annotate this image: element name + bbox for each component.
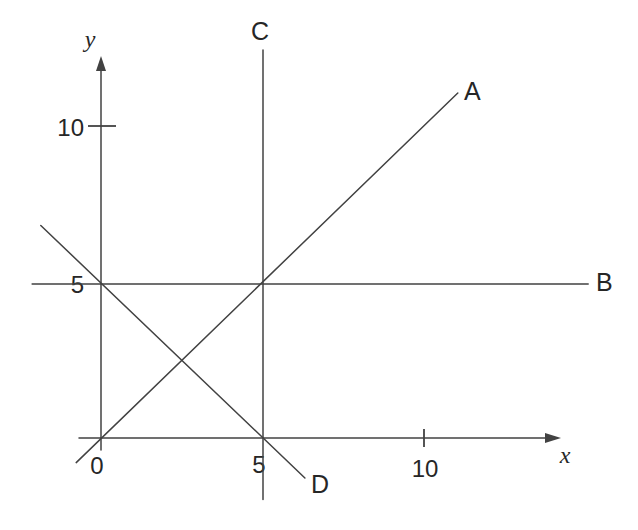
- line-label-D: D: [311, 470, 329, 498]
- coordinate-plane-figure: 5 10 x 5 10 y 0 A B C D: [0, 0, 638, 530]
- line-D: [41, 226, 305, 479]
- line-label-C: C: [251, 17, 269, 45]
- y-axis-label: y: [83, 26, 96, 52]
- origin-label: 0: [90, 452, 103, 479]
- x-axis-arrowhead: [545, 433, 561, 443]
- y-axis-arrowhead: [96, 56, 106, 71]
- plotted-lines: [32, 50, 588, 500]
- y-axis-tick-label-10: 10: [57, 114, 84, 141]
- line-graph: 5 10 x 5 10 y 0 A B C D: [0, 0, 638, 530]
- x-axis-tick-label-10: 10: [412, 455, 439, 482]
- x-axis-label: x: [559, 442, 571, 468]
- line-label-A: A: [464, 77, 481, 105]
- line-label-B: B: [596, 268, 613, 296]
- line-labels: A B C D: [251, 17, 613, 498]
- line-A: [76, 93, 458, 463]
- y-axis: 5 10 y: [57, 26, 116, 450]
